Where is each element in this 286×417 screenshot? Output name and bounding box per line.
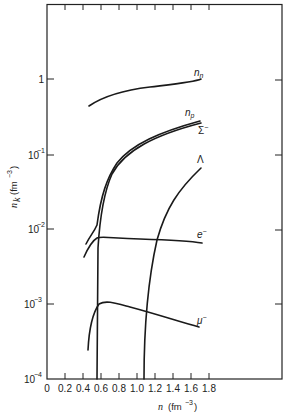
x-tick-label: 1.2: [148, 383, 162, 394]
curve-neutron: [89, 79, 201, 106]
y-axis-label: n k (fm −3 ): [6, 166, 22, 208]
svg-text:n: n: [158, 401, 163, 412]
x-tick-label: 1.0: [130, 383, 144, 394]
plot-frame: [47, 5, 282, 380]
curve-proton: [86, 121, 200, 244]
curve-sigma-minus: [97, 123, 201, 379]
x-tick-label: 1.8: [202, 383, 216, 394]
y-tick-labels: 1 10 −1 10 −2 10 −3 10 −4: [24, 74, 45, 385]
x-tick-label: 1.6: [184, 383, 198, 394]
svg-text:k: k: [11, 197, 22, 202]
y-tick-exponent: −1: [37, 147, 45, 154]
svg-text:−3: −3: [6, 170, 13, 178]
curve-muon: [88, 302, 199, 350]
svg-text:): ): [194, 401, 197, 412]
x-tick-label: 0: [44, 383, 50, 394]
x-tick-label: 0.2: [58, 383, 72, 394]
top-x-ticks: [65, 5, 209, 11]
right-y-ticks: [275, 80, 282, 304]
label-lambda: Λ: [197, 154, 204, 165]
x-tick-label: 1.4: [166, 383, 180, 394]
label-nn: nn: [194, 67, 204, 79]
label-electron: e−: [197, 228, 207, 240]
label-np: np: [185, 107, 195, 120]
x-tick-label: 0.8: [112, 383, 126, 394]
curve-labels: nn np Σ− Λ e− μ−: [185, 67, 208, 326]
particle-density-chart: 0 0.2 0.4 0.6 0.8 1.0 1.2 1.4 1.6 1.8 1 …: [0, 0, 286, 417]
svg-text:n: n: [8, 203, 19, 208]
svg-text:(fm: (fm: [168, 401, 182, 412]
curve-lambda: [144, 168, 201, 379]
svg-text:−3: −3: [185, 399, 193, 406]
x-tick-label: 0.4: [76, 383, 90, 394]
y-tick-exponent: −3: [34, 296, 42, 303]
left-y-ticks: [47, 79, 54, 304]
label-muon: μ−: [196, 314, 207, 326]
curve-electron: [84, 237, 202, 257]
x-axis-label: n (fm −3 ): [158, 399, 197, 412]
label-sigma: Σ−: [198, 124, 208, 136]
svg-text:(fm: (fm: [8, 181, 19, 195]
x-tick-label: 0.6: [94, 383, 108, 394]
y-tick-label: 1: [38, 74, 44, 85]
y-tick-exponent: −4: [34, 371, 42, 378]
x-tick-labels: 0 0.2 0.4 0.6 0.8 1.0 1.2 1.4 1.6 1.8: [44, 383, 216, 394]
y-tick-exponent: −2: [37, 221, 45, 228]
curves: [84, 79, 202, 379]
svg-text:): ): [8, 166, 19, 169]
bottom-x-ticks: [65, 373, 209, 379]
